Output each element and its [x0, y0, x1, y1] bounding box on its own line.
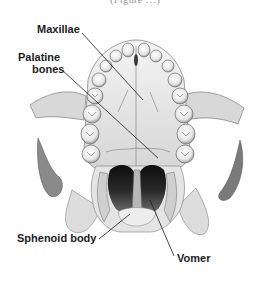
label-maxillae: Maxillae: [37, 23, 80, 35]
label-palatine: Palatine: [18, 51, 60, 63]
label-vomer: Vomer: [177, 252, 210, 264]
incisive-foramen: [134, 54, 138, 66]
label-bones: bones: [32, 63, 64, 75]
label-sphenoid-body: Sphenoid body: [17, 232, 96, 244]
